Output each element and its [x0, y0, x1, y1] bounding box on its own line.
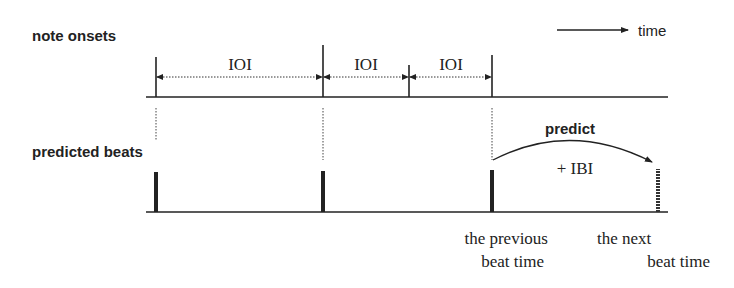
- alignment-guides: [156, 108, 492, 160]
- time-direction-indicator: time: [557, 22, 666, 39]
- predict-label: predict: [545, 120, 595, 137]
- ioi-interval: IOI: [157, 55, 322, 77]
- next-beat-annotation: the next beat time: [597, 229, 710, 271]
- ioi-interval: IOI: [410, 55, 491, 77]
- next-beat-line2: beat time: [647, 252, 710, 271]
- previous-beat-line2: beat time: [481, 252, 544, 271]
- ioi-label: IOI: [228, 55, 252, 74]
- previous-beat-line1: the previous: [464, 229, 548, 248]
- previous-beat-marker: [490, 170, 494, 212]
- note-onsets-label: note onsets: [32, 27, 116, 44]
- predicted-beats-label: predicted beats: [32, 143, 143, 160]
- beat-prediction-diagram: note onsets predicted beats time IOI IOI…: [0, 0, 734, 288]
- ibi-label: + IBI: [557, 159, 594, 178]
- beat-marker: [154, 172, 158, 212]
- ioi-label: IOI: [439, 55, 463, 74]
- time-label: time: [638, 22, 666, 39]
- prediction-arc: predict + IBI: [493, 120, 652, 178]
- ioi-label: IOI: [354, 55, 378, 74]
- next-beat-line1: the next: [597, 229, 652, 248]
- next-beat-marker: [656, 169, 660, 212]
- beat-marker: [321, 171, 325, 212]
- ioi-interval: IOI: [324, 55, 408, 77]
- onset-timeline: IOI IOI IOI: [146, 45, 668, 97]
- previous-beat-annotation: the previous beat time: [464, 229, 548, 271]
